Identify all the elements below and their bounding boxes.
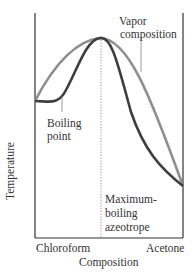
boiling-label-2: point bbox=[47, 130, 71, 143]
y-axis-title: Temperature bbox=[4, 142, 17, 200]
vapor-label-2: composition bbox=[120, 28, 177, 41]
azeotrope-label-2: boiling bbox=[105, 207, 138, 220]
azeotrope-label-1: Maximum- bbox=[105, 193, 157, 206]
vapor-label-1: Vapor bbox=[119, 15, 146, 28]
boiling-curve bbox=[35, 38, 183, 186]
x-left-label: Chloroform bbox=[36, 242, 90, 255]
azeotrope-label-3: azeotrope bbox=[105, 221, 150, 234]
phase-diagram bbox=[0, 0, 196, 277]
boiling-label-1: Boiling bbox=[47, 117, 82, 130]
x-right-label: Acetone bbox=[146, 242, 184, 255]
x-axis-title: Composition bbox=[79, 256, 138, 269]
